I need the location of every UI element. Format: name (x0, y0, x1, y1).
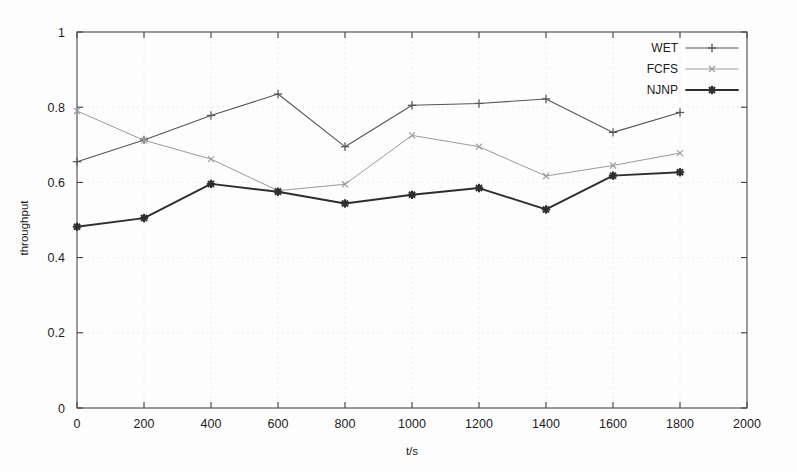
y-tick-label: 1 (58, 26, 65, 40)
x-tick-label: 800 (335, 417, 356, 431)
legend-entry-njnp[interactable]: NJNP (647, 83, 738, 97)
x-axis-title: t/s (406, 445, 418, 457)
chart-legend: WETFCFSNJNP (647, 41, 738, 97)
data-point-marker-star (140, 214, 148, 222)
series-fcfs (74, 108, 683, 194)
y-tick-label: 0.4 (48, 251, 65, 265)
legend-label: FCFS (647, 62, 678, 76)
y-axis-title: throughput (18, 200, 30, 256)
data-point-marker-star (73, 223, 81, 231)
data-point-marker-star (475, 184, 483, 192)
data-point-marker-plus (207, 111, 215, 119)
data-point-marker-star (408, 191, 416, 199)
series-wet (73, 90, 684, 166)
x-tick-label: 0 (74, 417, 81, 431)
data-point-marker-plus (475, 99, 483, 107)
data-point-marker-plus (542, 95, 550, 103)
data-point-marker-star (274, 188, 282, 196)
data-point-marker-star (676, 168, 684, 176)
x-tick-label: 1600 (599, 417, 627, 431)
legend-label: NJNP (647, 83, 678, 97)
x-tick-label: 600 (268, 417, 289, 431)
data-point-marker-star (542, 205, 550, 213)
series-line (77, 94, 680, 162)
y-tick-label: 0.2 (48, 326, 65, 340)
series-line (77, 111, 680, 191)
x-tick-label: 1400 (532, 417, 560, 431)
chart-container: 0200400600800100012001400160018002000 00… (0, 0, 797, 472)
data-series-group (73, 90, 684, 231)
data-point-marker-plus (609, 128, 617, 136)
data-point-marker-star (609, 171, 617, 179)
legend-entry-wet[interactable]: WET (651, 41, 738, 55)
y-axis-tick-labels: 00.20.40.60.81 (48, 26, 65, 416)
data-point-marker-plus (73, 158, 81, 166)
x-tick-label: 2000 (733, 417, 761, 431)
data-point-marker-plus (708, 44, 716, 52)
legend-entry-fcfs[interactable]: FCFS (647, 62, 738, 76)
y-tick-label: 0.6 (48, 176, 65, 190)
data-point-marker-star (708, 86, 716, 94)
x-tick-label: 1000 (398, 417, 426, 431)
x-tick-label: 400 (201, 417, 222, 431)
series-line (77, 172, 680, 227)
x-tick-label: 1200 (465, 417, 493, 431)
x-tick-label: 1800 (666, 417, 694, 431)
y-tick-label: 0.8 (48, 101, 65, 115)
data-point-marker-cross (208, 156, 214, 162)
data-point-marker-plus (676, 108, 684, 116)
x-axis-tick-labels: 0200400600800100012001400160018002000 (74, 417, 761, 431)
data-point-marker-plus (408, 101, 416, 109)
data-point-marker-star (341, 199, 349, 207)
y-tick-label: 0 (58, 402, 65, 416)
x-tick-label: 200 (134, 417, 155, 431)
throughput-line-chart: 0200400600800100012001400160018002000 00… (0, 0, 797, 472)
series-njnp (73, 168, 684, 231)
legend-label: WET (651, 41, 678, 55)
data-point-marker-star (207, 180, 215, 188)
